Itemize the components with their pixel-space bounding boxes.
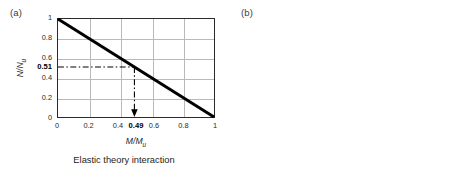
x-axis-title-a: M/Mu: [126, 136, 146, 148]
panel-b: (b) 1 0.8 0.6 0: [231, 0, 463, 174]
plot-area-a: [57, 18, 215, 118]
y-tick-0.6: 0.6: [30, 54, 52, 61]
panel-a-label: (a): [10, 7, 22, 18]
y-tick-0.2: 0.2: [30, 94, 52, 101]
y-axis-title-a: N/Nu: [15, 59, 27, 77]
x-tick-1: 1: [213, 122, 217, 129]
panel-a-caption: Elastic theory interaction: [73, 155, 174, 165]
figure-interaction-diagrams: (a) 1 0.8 0.6 0.51 0.4: [0, 0, 463, 174]
x-tick-0: 0: [55, 122, 59, 129]
y-tick-1: 1: [30, 14, 52, 21]
x-tick-0.4: 0.4: [113, 122, 123, 129]
panel-a: (a) 1 0.8 0.6 0.51 0.4: [0, 0, 232, 174]
y-tick-highlight-a: 0.51: [26, 63, 52, 71]
panel-b-label: (b): [241, 7, 253, 18]
y-tick-0.8: 0.8: [30, 34, 52, 41]
x-tick-0.6: 0.6: [149, 122, 159, 129]
elastic-interaction-line: [58, 19, 214, 117]
y-tick-0.4: 0.4: [30, 74, 52, 81]
x-tick-0.8: 0.8: [178, 122, 188, 129]
x-tick-0.2: 0.2: [83, 122, 93, 129]
annotation-arrowhead-a: [131, 109, 138, 117]
plot-a-svg: [58, 19, 214, 117]
x-tick-highlight-a: 0.49: [129, 122, 144, 130]
y-tick-0: 0: [30, 114, 52, 121]
